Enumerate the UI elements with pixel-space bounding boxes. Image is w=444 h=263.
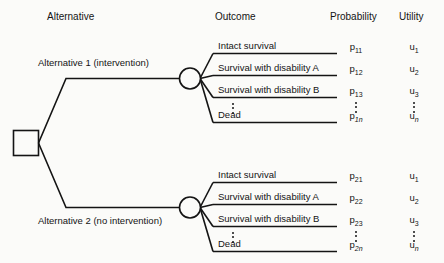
column-header-utility: Utility <box>399 12 423 22</box>
utility-value-1-2: u2 <box>399 64 429 74</box>
fan-line-2-4 <box>200 208 213 252</box>
outcome-label-2-1: Intact survival <box>218 170 276 180</box>
probability-value-2-3: p23 <box>338 215 374 225</box>
utility-value-2-1: u1 <box>399 171 429 181</box>
probability-value-1-2: p12 <box>338 64 374 74</box>
outcome-ellipsis-1 <box>229 101 237 116</box>
chance-node-circle-1 <box>180 68 201 89</box>
alternative-1-label: Alternative 1 (intervention) <box>38 58 149 68</box>
column-header-probability: Probability <box>330 12 377 22</box>
utility-ellipsis-1 <box>410 100 418 115</box>
utility-value-1-1: u1 <box>399 42 429 52</box>
chance-node-circle-2 <box>180 197 201 218</box>
outcome-ellipsis-2 <box>229 230 237 245</box>
fan-line-1-4 <box>200 79 213 123</box>
probability-value-1-3: p13 <box>338 86 374 96</box>
fan-line-2-3 <box>200 208 213 227</box>
fan-line-1-1 <box>200 54 213 79</box>
probability-ellipsis-1 <box>352 100 360 115</box>
branch-line-alternative-1 <box>39 79 180 144</box>
fan-line-1-3 <box>200 79 213 98</box>
probability-value-1-1: p11 <box>338 42 374 52</box>
branch-line-alternative-2 <box>39 143 180 208</box>
outcome-label-1-2: Survival with disability A <box>218 63 319 73</box>
fan-line-2-1 <box>200 183 213 208</box>
probability-value-2-2: p22 <box>338 193 374 203</box>
decision-tree-figure: Alternative Outcome Probability Utility … <box>0 0 444 263</box>
probability-value-2-1: p21 <box>338 171 374 181</box>
decision-node-square <box>14 131 39 156</box>
alternative-2-label: Alternative 2 (no intervention) <box>38 216 162 226</box>
utility-ellipsis-2 <box>410 229 418 244</box>
outcome-label-2-3: Survival with disability B <box>218 214 319 224</box>
column-header-outcome: Outcome <box>215 12 256 22</box>
utility-value-2-2: u2 <box>399 193 429 203</box>
outcome-label-1-3: Survival with disability B <box>218 85 319 95</box>
utility-value-1-3: u3 <box>399 86 429 96</box>
probability-ellipsis-2 <box>352 229 360 244</box>
column-header-alternative: Alternative <box>47 12 94 22</box>
utility-value-2-3: u3 <box>399 215 429 225</box>
outcome-label-1-1: Intact survival <box>218 41 276 51</box>
outcome-label-2-2: Survival with disability A <box>218 192 319 202</box>
